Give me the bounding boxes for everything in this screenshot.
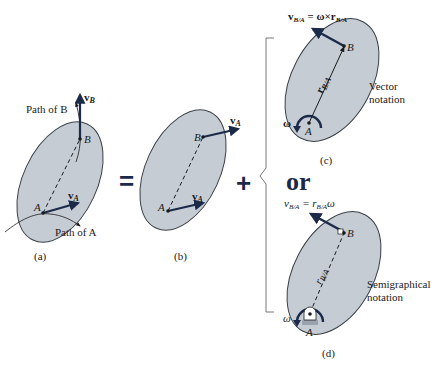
point-b-dot xyxy=(342,44,346,48)
rigid-body-b xyxy=(122,96,243,243)
pin-dot xyxy=(308,312,312,316)
point-b-dot xyxy=(342,231,346,235)
point-b-label: B xyxy=(347,41,354,53)
semigraphical-notation-line2: notation xyxy=(367,291,404,303)
point-a-label: A xyxy=(33,201,41,213)
plus-sign: + xyxy=(236,168,251,198)
vector-notation-line1: Vector xyxy=(369,80,398,92)
semigraphical-notation-line1: Semigraphical xyxy=(367,278,431,290)
vector-equation: vB/A = ω×rB/A xyxy=(288,10,347,24)
point-a-dot xyxy=(166,209,170,213)
caption-b: (b) xyxy=(174,250,187,263)
point-b-label: B xyxy=(84,133,91,145)
omega-label: ω xyxy=(283,117,291,129)
panel-b: B A vA vA (b) xyxy=(122,96,243,263)
pin-support-base xyxy=(302,320,318,325)
point-a-dot xyxy=(41,211,45,215)
panel-a: Path of B B A vB vA Path of A (a) xyxy=(0,91,121,263)
point-b-label: B xyxy=(347,227,354,239)
kinematics-diagram: Path of B B A vB vA Path of A (a) = B A … xyxy=(0,0,442,372)
caption-d: (d) xyxy=(322,347,335,360)
omega-label: ω xyxy=(283,312,291,324)
path-of-b-label: Path of B xyxy=(26,103,68,115)
vector-notation-line2: notation xyxy=(369,93,406,105)
or-word: or xyxy=(286,167,311,196)
point-b-label: B xyxy=(194,131,201,143)
rigid-body-d xyxy=(268,196,401,350)
semigraphical-equation: vB/A = rB/Aω xyxy=(284,197,335,211)
equals-sign: = xyxy=(119,166,134,196)
point-b-dot xyxy=(78,137,82,141)
caption-a: (a) xyxy=(34,250,47,263)
curly-brace xyxy=(260,38,274,312)
panel-d: B A ω rB/A vB/A = rB/Aω Semigraphical no… xyxy=(268,196,431,360)
point-a-label: A xyxy=(305,326,313,338)
caption-c: (c) xyxy=(320,154,333,167)
point-b-dot xyxy=(201,135,205,139)
point-a-label: A xyxy=(157,201,165,213)
vA-top-label: vA xyxy=(230,114,242,128)
vB-label: vB xyxy=(84,91,96,105)
panel-c: B A ω rB/A vB/A = ω×rB/A Vector notation… xyxy=(266,3,406,167)
path-of-a-label: Path of A xyxy=(55,226,97,238)
point-a-label: A xyxy=(304,125,312,137)
